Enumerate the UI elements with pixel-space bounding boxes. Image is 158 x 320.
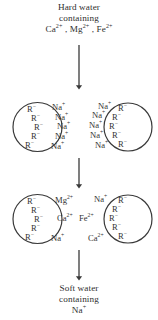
- sodium-ion-label: Na+: [52, 102, 65, 112]
- sodium-ion-label: Na+: [51, 233, 64, 243]
- sodium-ion-label: Na+: [95, 140, 108, 150]
- sodium-ion-label: Na+: [94, 194, 107, 204]
- sodium-ion-label: Na+: [51, 141, 64, 151]
- resin-anion-label: R−: [118, 139, 127, 149]
- resin-anion-label: R−: [25, 232, 34, 242]
- iron-ion-label: Fe2+: [79, 213, 94, 223]
- magnesium-ion-label: Mg2+: [55, 195, 73, 205]
- sodium-ion-label: Na+: [90, 130, 103, 140]
- resin-anion-label: R−: [25, 140, 34, 150]
- diagram-graphics-layer: [0, 0, 158, 320]
- calcium-ion-label: Ca2+: [57, 213, 73, 223]
- resin-anion-label: R−: [118, 231, 127, 241]
- calcium-ion-label: Ca2+: [88, 233, 104, 243]
- ion-exchange-water-softening-diagram: Hard water containing Ca2+ , Mg2+ , Fe2+…: [0, 0, 158, 320]
- sodium-ion-label: Na+: [57, 121, 70, 131]
